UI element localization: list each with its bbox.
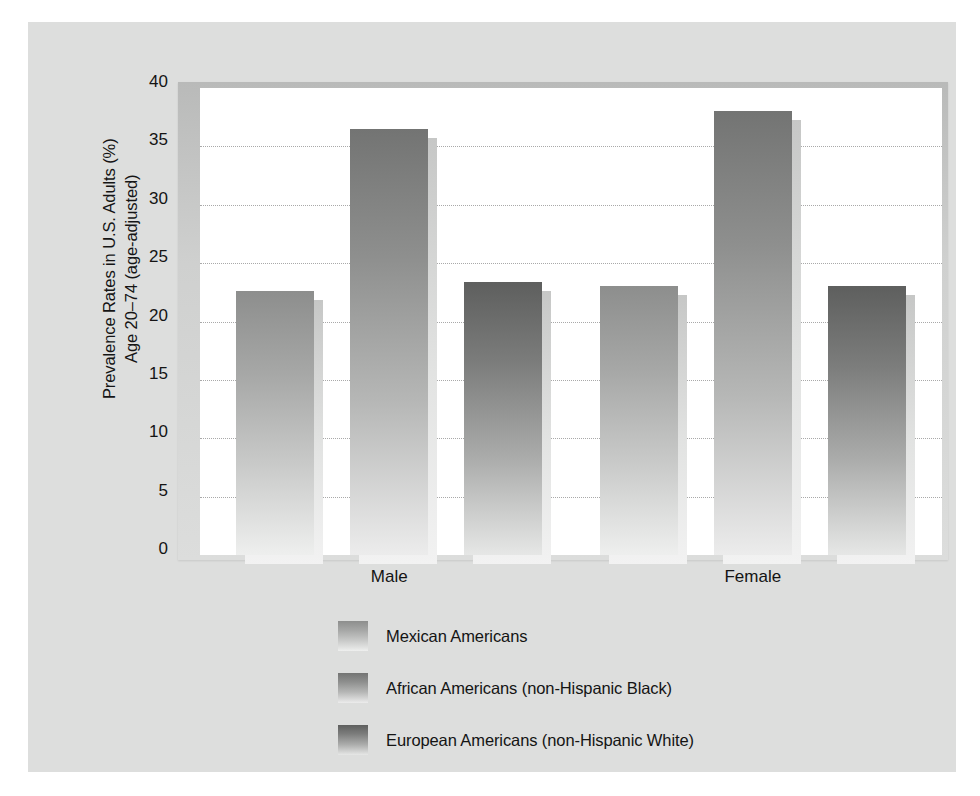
y-tick-label: 0: [124, 540, 168, 557]
y-axis-tick-labels: 0510152025303540: [124, 66, 168, 576]
x-axis-label-female: Female: [724, 567, 781, 587]
legend-swatch-icon: [338, 725, 368, 755]
plot-frame: [178, 82, 948, 560]
figure-root: Prevalence Rates in U.S. Adults (%) Age …: [0, 0, 980, 796]
y-tick-label: 20: [124, 307, 168, 324]
bar: [350, 129, 428, 555]
bar-body: [350, 129, 428, 555]
y-tick-label: 10: [124, 423, 168, 440]
bar-body: [236, 291, 314, 555]
y-tick-label: 5: [124, 482, 168, 499]
bar: [600, 286, 678, 555]
x-axis-category-labels: MaleFemale: [178, 567, 948, 601]
bar: [828, 286, 906, 555]
legend-item: African Americans (non-Hispanic Black): [338, 662, 938, 714]
legend-label: European Americans (non-Hispanic White): [386, 731, 694, 750]
y-tick-label: 35: [124, 131, 168, 148]
bar-body: [464, 282, 542, 555]
legend-item: Mexican Americans: [338, 610, 938, 662]
legend-swatch-icon: [338, 673, 368, 703]
legend-item: European Americans (non-Hispanic White): [338, 714, 938, 766]
y-tick-label: 40: [124, 73, 168, 90]
legend-swatch-icon: [338, 621, 368, 651]
x-axis-label-male: Male: [371, 567, 408, 587]
bar: [236, 291, 314, 555]
bars-layer: [200, 88, 942, 555]
chart-legend: Mexican AmericansAfrican Americans (non-…: [338, 610, 938, 766]
figure-panel: Prevalence Rates in U.S. Adults (%) Age …: [28, 22, 956, 772]
legend-label: Mexican Americans: [386, 627, 527, 646]
bar: [464, 282, 542, 555]
bar-body: [600, 286, 678, 555]
bar-body: [828, 286, 906, 555]
legend-label: African Americans (non-Hispanic Black): [386, 679, 672, 698]
bar: [714, 111, 792, 555]
plot-area: [200, 88, 942, 555]
y-tick-label: 15: [124, 365, 168, 382]
y-tick-label: 30: [124, 190, 168, 207]
bar-body: [714, 111, 792, 555]
y-tick-label: 25: [124, 248, 168, 265]
